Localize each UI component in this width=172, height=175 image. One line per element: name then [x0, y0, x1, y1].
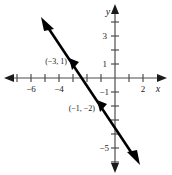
x-tick-label--6: −6 — [26, 84, 36, 94]
line-upper-arrow-icon — [41, 17, 54, 31]
y-tick-label-3: 3 — [103, 31, 108, 41]
x-tick-label--4: −4 — [54, 84, 64, 94]
line-lower-arrow-icon — [127, 150, 140, 165]
y-tick-label--5: −5 — [99, 143, 109, 153]
point-label-neg1-neg2: (−1, −2) — [69, 104, 96, 113]
y-axis-top-arrow-icon — [111, 4, 119, 14]
y-tick-label--1: −1 — [99, 87, 109, 97]
graph-figure: −6 −4 2 3 1 −1 −5 y x — [0, 0, 172, 175]
y-axis-bottom-arrow-icon — [111, 163, 119, 173]
y-axis-label: y — [105, 6, 111, 17]
point-label-neg3-1: (−3, 1) — [45, 57, 67, 66]
x-axis-label: x — [155, 83, 161, 94]
y-tick-label-1: 1 — [103, 59, 108, 69]
coordinate-plane: −6 −4 2 3 1 −1 −5 y x — [0, 0, 172, 175]
tick-label-group: −6 −4 2 3 1 −1 −5 — [26, 31, 145, 153]
x-axis-left-arrow-icon — [4, 74, 14, 82]
x-tick-label-2: 2 — [141, 84, 146, 94]
x-axis-right-arrow-icon — [157, 74, 167, 82]
